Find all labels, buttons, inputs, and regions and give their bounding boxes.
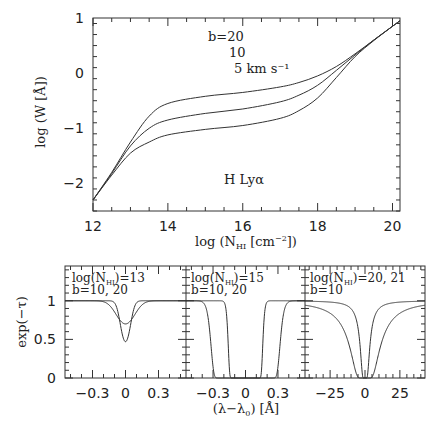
y-tick-label: 0 bbox=[47, 370, 56, 386]
x-tick-label: 16 bbox=[234, 218, 252, 234]
profile-b-20 bbox=[65, 301, 186, 324]
panel3-b-annotation: b=10 bbox=[310, 283, 343, 297]
y-tick-label: 0.5 bbox=[34, 331, 56, 347]
y-tick-label: 1 bbox=[75, 10, 84, 26]
panel1-b-annotation: b=10, 20 bbox=[72, 283, 128, 297]
panel2-b-annotation: b=10, 20 bbox=[191, 283, 247, 297]
x-tick-label: 14 bbox=[159, 218, 177, 234]
x-tick-label: 18 bbox=[309, 218, 327, 234]
y-tick-label: −2 bbox=[63, 175, 84, 191]
profile-b-10 bbox=[186, 301, 305, 378]
x-tick-label: −25 bbox=[315, 385, 345, 401]
profile-b-20 bbox=[186, 301, 305, 378]
profile-logN-21 bbox=[305, 305, 425, 378]
b-label-5: 5 km s⁻¹ bbox=[234, 61, 290, 76]
y-tick-label: 1 bbox=[47, 293, 56, 309]
x-tick-label: −0.3 bbox=[76, 385, 110, 401]
top-x-tick-labels: 1214161820 bbox=[84, 218, 401, 234]
x-tick-label: −0.3 bbox=[196, 385, 230, 401]
bottom-y-tick-labels: 00.51 bbox=[34, 293, 56, 386]
x-tick-label: 0 bbox=[241, 385, 250, 401]
b-label-10: 10 bbox=[229, 45, 246, 60]
top-x-axis-label: log (NHI [cm−2]) bbox=[195, 234, 297, 251]
x-tick-label: 20 bbox=[384, 218, 402, 234]
y-tick-label: 0 bbox=[75, 65, 84, 81]
bottom-x-tick-labels: −0.300.3−0.300.3−25025 bbox=[76, 385, 409, 401]
bottom-curves bbox=[65, 301, 425, 378]
profile-panels: −0.300.3−0.300.3−25025 00.51 log(NHI)=13… bbox=[14, 266, 425, 418]
x-tick-label: 0 bbox=[121, 385, 130, 401]
x-tick-label: 0 bbox=[361, 385, 370, 401]
x-tick-label: 12 bbox=[84, 218, 102, 234]
bottom-x-axis-label: (λ−λ0) [Å] bbox=[213, 401, 279, 418]
line-label: H Lyα bbox=[224, 172, 264, 187]
b-label-20: b=20 bbox=[208, 29, 244, 44]
figure: 1214161820 10−1−2 b=20 10 5 km s⁻¹ H Lyα… bbox=[0, 0, 443, 432]
x-tick-label: 25 bbox=[391, 385, 409, 401]
bottom-y-axis-label: exp(−τ) bbox=[14, 296, 29, 348]
y-tick-label: −1 bbox=[63, 120, 84, 136]
x-tick-label: 0.3 bbox=[147, 385, 169, 401]
x-tick-label: 0.3 bbox=[267, 385, 289, 401]
top-y-axis-label: log (W [Å]) bbox=[33, 76, 48, 148]
profile-b-10 bbox=[65, 301, 186, 342]
curve-of-growth-plot: 1214161820 10−1−2 b=20 10 5 km s⁻¹ H Lyα… bbox=[33, 10, 401, 251]
top-y-tick-labels: 10−1−2 bbox=[63, 10, 84, 191]
profile-logN-20 bbox=[305, 301, 425, 378]
